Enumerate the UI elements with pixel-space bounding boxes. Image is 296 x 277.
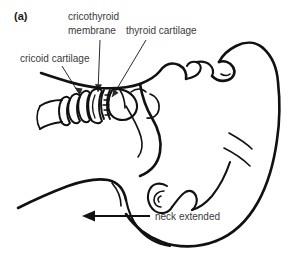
- thyroid-notch-detail: [120, 90, 125, 108]
- throat-contour: [140, 84, 161, 176]
- ear-antihelix: [154, 191, 164, 207]
- mandible-to-ear-contour: [192, 162, 230, 210]
- thyroid-superior-cornu: [131, 89, 146, 92]
- leader-cricothyroid-membrane: [95, 40, 102, 92]
- trachea-end-cap: [37, 106, 40, 129]
- nose-contour: [212, 61, 234, 81]
- tracheal-rings: [59, 91, 90, 126]
- forehead-contour: [219, 43, 263, 62]
- nostril-detail: [221, 74, 230, 76]
- label-cricothyroid-membrane-line1: cricothyroid: [68, 11, 119, 22]
- ear-tragus-lobe: [172, 191, 197, 210]
- neck-extended-arrow: [82, 211, 150, 222]
- label-cricothyroid-membrane-line2: membrane: [68, 25, 116, 36]
- label-cricoid-cartilage: cricoid cartilage: [20, 53, 90, 64]
- ear-concha: [158, 196, 161, 202]
- lower-lip-contour: [186, 62, 201, 79]
- cricoid-inner-detail: [93, 95, 95, 118]
- shoulder-contour: [18, 179, 126, 208]
- chin-jaw-contour: [140, 64, 186, 84]
- trachea-posterior-wall: [40, 122, 62, 129]
- neck-crease-lower: [224, 148, 250, 166]
- ear-helix: [148, 184, 172, 213]
- label-thyroid-cartilage: thyroid cartilage: [126, 25, 197, 36]
- anatomy-figure-panel-a: (a) cricothyroid membrane thyroid cartil…: [0, 0, 296, 277]
- neck-crease-upper: [229, 133, 252, 149]
- panel-label: (a): [14, 10, 28, 22]
